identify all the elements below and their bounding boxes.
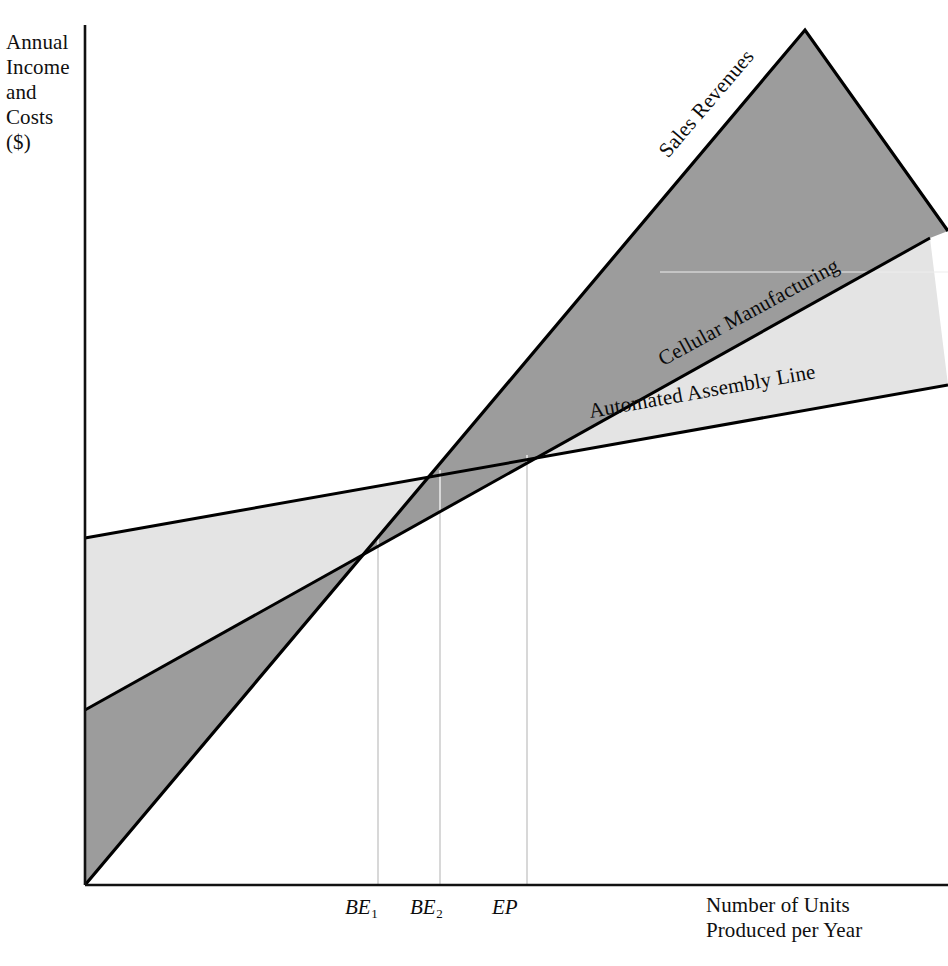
x-tick-label-be2-subscript: 2 xyxy=(436,906,443,921)
x-tick-label-be2: BE2 xyxy=(410,895,442,920)
breakeven-chart-page: Annual Income and Costs ($) Number of Un… xyxy=(0,0,948,966)
x-tick-label-ep: EP xyxy=(492,895,518,920)
x-tick-label-be1-subscript: 1 xyxy=(371,906,378,921)
y-axis-title: Annual Income and Costs ($) xyxy=(6,30,80,155)
x-tick-label-be2-text: BE xyxy=(410,895,436,919)
x-tick-label-be1: BE1 xyxy=(345,895,377,920)
x-tick-label-be1-text: BE xyxy=(345,895,371,919)
chart-canvas xyxy=(0,0,948,966)
cellular-manufacturing-shaded-region xyxy=(85,30,948,885)
x-axis-title: Number of Units Produced per Year xyxy=(706,893,946,943)
cellular-manufacturing-line xyxy=(85,238,930,710)
